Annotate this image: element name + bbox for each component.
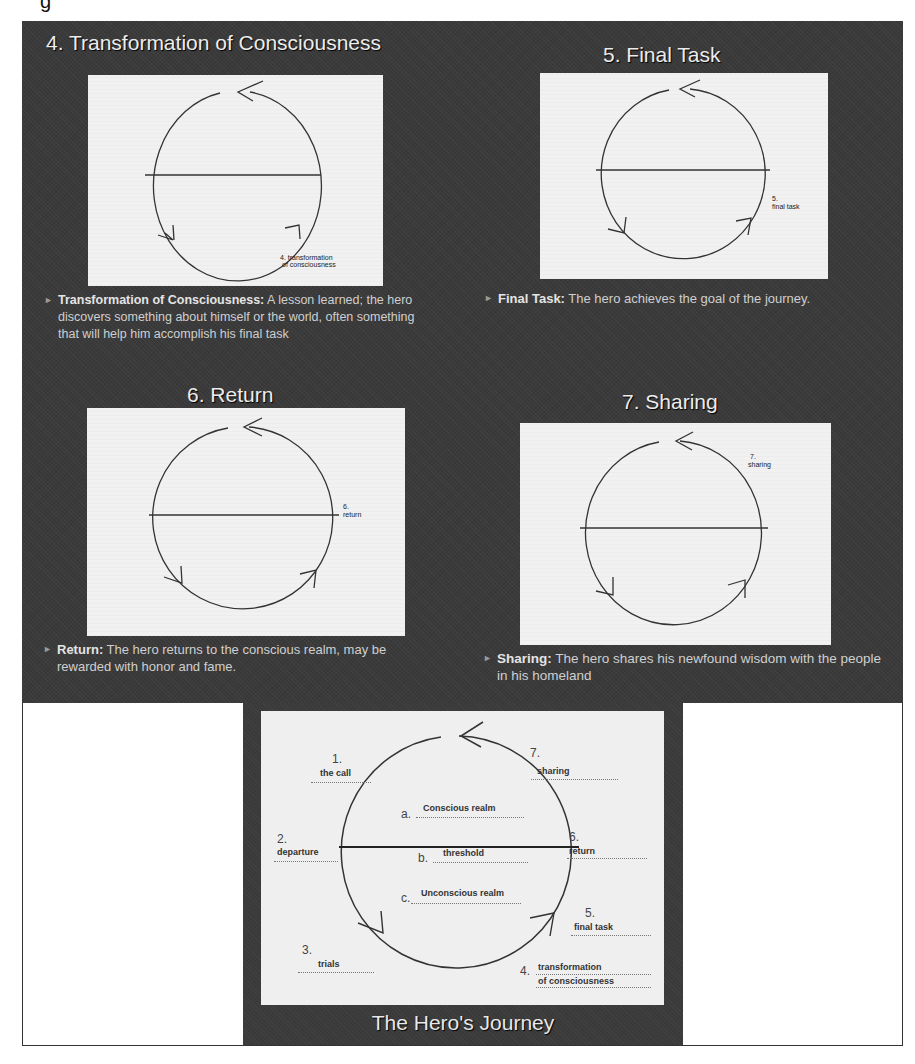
realm-label: Conscious realm [423, 803, 496, 813]
answer-line [416, 817, 524, 818]
slide-diagram: 4. transformation of consciousness [88, 75, 383, 286]
bullet-icon: ► [43, 641, 52, 658]
realm-letter: c. [401, 891, 410, 905]
stage-label: trials [318, 959, 340, 969]
bullet-icon: ► [483, 650, 492, 667]
realm-label: Unconscious realm [421, 888, 504, 898]
definition: The hero returns to the conscious realm,… [57, 642, 386, 674]
summary-slide: 1. the call 2. departure 3. trials 4. tr… [243, 703, 683, 1045]
term: Transformation of Consciousness: [58, 293, 264, 307]
cycle-diagram-icon [540, 73, 828, 279]
partial-header-glyph: g [40, 0, 51, 13]
answer-line [531, 779, 618, 780]
stage-label: return [569, 846, 595, 856]
slide-title: 4. Transformation of Consciousness [46, 31, 381, 55]
cycle-diagram-icon [88, 75, 383, 286]
diagram-label: of consciousness [282, 261, 336, 268]
answer-line [571, 935, 651, 936]
cycle-diagram-icon [87, 408, 405, 636]
slide-description: ► Transformation of Consciousness: A les… [58, 292, 438, 343]
summary-title: The Hero's Journey [243, 1011, 683, 1035]
diagram-label: 4. transformation [280, 254, 333, 261]
diagram-label: 6. [343, 503, 349, 510]
stage-number: 6. [569, 830, 579, 844]
answer-line [274, 861, 338, 862]
slide-description: ► Sharing: The hero shares his newfound … [497, 650, 887, 684]
slide-description: ► Final Task: The hero achieves the goal… [498, 290, 868, 307]
slide-title: 5. Final Task [603, 43, 721, 67]
cycle-diagram-icon [520, 423, 831, 645]
slide-diagram: 7. sharing [520, 423, 831, 645]
realm-label: threshold [443, 848, 484, 858]
stage-number: 2. [277, 832, 287, 846]
realm-letter: b. [418, 851, 428, 865]
diagram-label: 5. [772, 195, 778, 202]
term: Return: [57, 642, 103, 657]
bullet-icon: ► [484, 290, 493, 307]
answer-line [536, 974, 651, 975]
term: Final Task: [498, 291, 565, 306]
answer-line [311, 782, 371, 783]
stage-number: 5. [585, 906, 595, 920]
stage-label: transformation [538, 962, 602, 972]
answer-line [411, 903, 521, 904]
stage-label: the call [320, 768, 351, 778]
stage-number: 4. [520, 964, 530, 978]
diagram-label: sharing [748, 461, 771, 468]
diagram-label: return [343, 511, 361, 518]
definition: The hero achieves the goal of the journe… [565, 291, 810, 306]
diagram-label: final task [772, 203, 800, 210]
definition: The hero shares his newfound wisdom with… [497, 651, 881, 683]
stage-number: 1. [332, 752, 342, 766]
stage-label: sharing [537, 766, 570, 776]
answer-line [298, 972, 374, 973]
diagram-label: 7. [750, 453, 756, 460]
slide-title: 7. Sharing [622, 390, 718, 414]
slide-title: 6. Return [187, 383, 273, 407]
bullet-icon: ► [44, 292, 53, 309]
stage-number: 7. [530, 746, 540, 760]
slide-description: ► Return: The hero returns to the consci… [57, 641, 437, 675]
answer-line [433, 862, 528, 863]
stage-label: final task [574, 922, 613, 932]
slide-diagram: 5. final task [540, 73, 828, 279]
hero-journey-diagram: 1. the call 2. departure 3. trials 4. tr… [261, 711, 664, 1005]
term: Sharing: [497, 651, 552, 666]
answer-line [536, 987, 651, 988]
realm-letter: a. [401, 807, 411, 821]
stage-number: 3. [302, 943, 312, 957]
stage-label: of consciousness [538, 976, 614, 986]
slide-diagram: 6. return [87, 408, 405, 636]
answer-line [567, 858, 647, 859]
stage-label: departure [277, 847, 319, 857]
